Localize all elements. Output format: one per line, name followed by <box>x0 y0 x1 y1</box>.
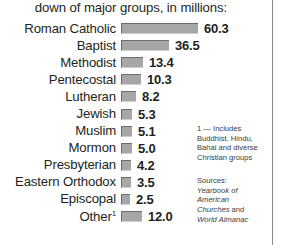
sources-line-1: Yearbook of <box>197 186 267 196</box>
chart-row: Baptist36.5 <box>0 37 262 54</box>
row-value: 12.0 <box>148 209 173 224</box>
value-bar <box>121 194 130 205</box>
sources-line-3-title: Churches <box>197 205 230 214</box>
row-label: Muslim <box>0 124 121 138</box>
row-value: 5.1 <box>138 124 155 139</box>
bar-wrap: 12.0 <box>121 208 173 225</box>
row-label: Baptist <box>0 39 121 53</box>
row-label: Roman Catholic <box>0 22 121 36</box>
chart-row: Pentecostal10.3 <box>0 71 262 88</box>
row-value: 5.0 <box>138 141 155 156</box>
row-label: Other1 <box>0 210 121 224</box>
sources-line-2: American <box>197 195 267 205</box>
chart-row: Lutheran8.2 <box>0 88 262 105</box>
value-bar <box>121 74 141 85</box>
chart-row: Methodist13.4 <box>0 54 262 71</box>
bar-wrap: 4.2 <box>121 157 154 174</box>
value-bar <box>121 126 132 137</box>
row-label: Eastern Orthodox <box>0 175 121 189</box>
bar-wrap: 36.5 <box>121 37 200 54</box>
row-label-footnote-marker: 1 <box>112 208 116 217</box>
value-bar <box>121 23 198 34</box>
row-label: Pentecostal <box>0 73 121 87</box>
sources-block: Sources: Yearbook of American Churches a… <box>197 176 267 225</box>
religion-bar-chart-figure: down of major groups, in millions: Roman… <box>0 0 282 245</box>
value-bar <box>121 160 131 171</box>
row-value: 4.2 <box>137 158 154 173</box>
row-value: 36.5 <box>175 38 200 53</box>
chart-row: Jewish5.3 <box>0 105 262 122</box>
bar-wrap: 5.1 <box>121 123 155 140</box>
bar-wrap: 10.3 <box>121 71 172 88</box>
sources-conjunction: and <box>230 205 245 214</box>
row-value: 13.4 <box>149 55 174 70</box>
row-value: 60.3 <box>204 21 229 36</box>
chart-headline: down of major groups, in millions: <box>0 0 262 16</box>
value-bar <box>121 177 131 188</box>
row-value: 2.5 <box>136 192 153 207</box>
row-label: Jewish <box>0 107 121 121</box>
sources-title: Sources: <box>197 176 267 186</box>
row-label: Lutheran <box>0 90 121 104</box>
sources-line-3: Churches and <box>197 205 267 215</box>
bar-wrap: 5.0 <box>121 140 155 157</box>
value-bar <box>121 211 142 222</box>
row-label: Presbyterian <box>0 158 121 172</box>
value-bar <box>121 143 132 154</box>
bar-wrap: 13.4 <box>121 54 174 71</box>
value-bar <box>121 57 143 68</box>
bar-wrap: 60.3 <box>121 20 229 37</box>
sources-line-4: World Almanac <box>197 215 267 225</box>
row-value: 8.2 <box>142 89 159 104</box>
row-label: Episcopal <box>0 192 121 206</box>
value-bar <box>121 40 169 51</box>
row-value: 10.3 <box>147 72 172 87</box>
row-value: 3.5 <box>137 175 154 190</box>
bar-wrap: 5.3 <box>121 105 155 122</box>
bar-wrap: 8.2 <box>121 88 159 105</box>
row-value: 5.3 <box>138 107 155 122</box>
row-label: Methodist <box>0 56 121 70</box>
row-label: Mormon <box>0 141 121 155</box>
right-border-rule <box>272 0 273 245</box>
bar-wrap: 2.5 <box>121 191 153 208</box>
value-bar <box>121 91 136 102</box>
chart-row: Roman Catholic60.3 <box>0 20 262 37</box>
chart-notes: 1 — Includes Buddhist, Hindu, Bahai and … <box>197 124 267 224</box>
value-bar <box>121 109 132 120</box>
bar-wrap: 3.5 <box>121 174 154 191</box>
footnote-text: 1 — Includes Buddhist, Hindu, Bahai and … <box>197 124 267 163</box>
